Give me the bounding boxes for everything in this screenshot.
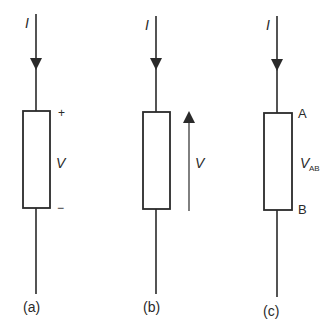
panel-a: I + V − (a) <box>23 14 67 315</box>
current-label: I <box>266 17 270 33</box>
voltage-arrow-icon <box>183 111 195 123</box>
minus-label: − <box>57 201 64 215</box>
current-arrow-icon <box>150 58 162 70</box>
current-label: I <box>25 15 29 31</box>
panel-c: I A V AB B (c) <box>263 16 320 319</box>
voltage-label: V <box>195 155 206 171</box>
caption: (c) <box>263 303 279 319</box>
caption: (a) <box>23 299 40 315</box>
current-arrow-icon <box>271 59 283 71</box>
current-label: I <box>145 17 149 33</box>
resistor <box>264 113 292 210</box>
voltage-subscript: AB <box>309 164 320 173</box>
plus-label: + <box>58 106 65 120</box>
diagram-canvas: I + V − (a) I V (b) I A V AB B (c) <box>0 0 328 326</box>
node-a-label: A <box>298 106 307 121</box>
resistor <box>143 112 170 209</box>
caption: (b) <box>143 299 160 315</box>
voltage-label: V <box>56 155 67 171</box>
resistor <box>23 111 50 208</box>
current-arrow-icon <box>30 58 42 70</box>
panel-b: I V (b) <box>143 16 206 315</box>
node-b-label: B <box>298 202 307 217</box>
